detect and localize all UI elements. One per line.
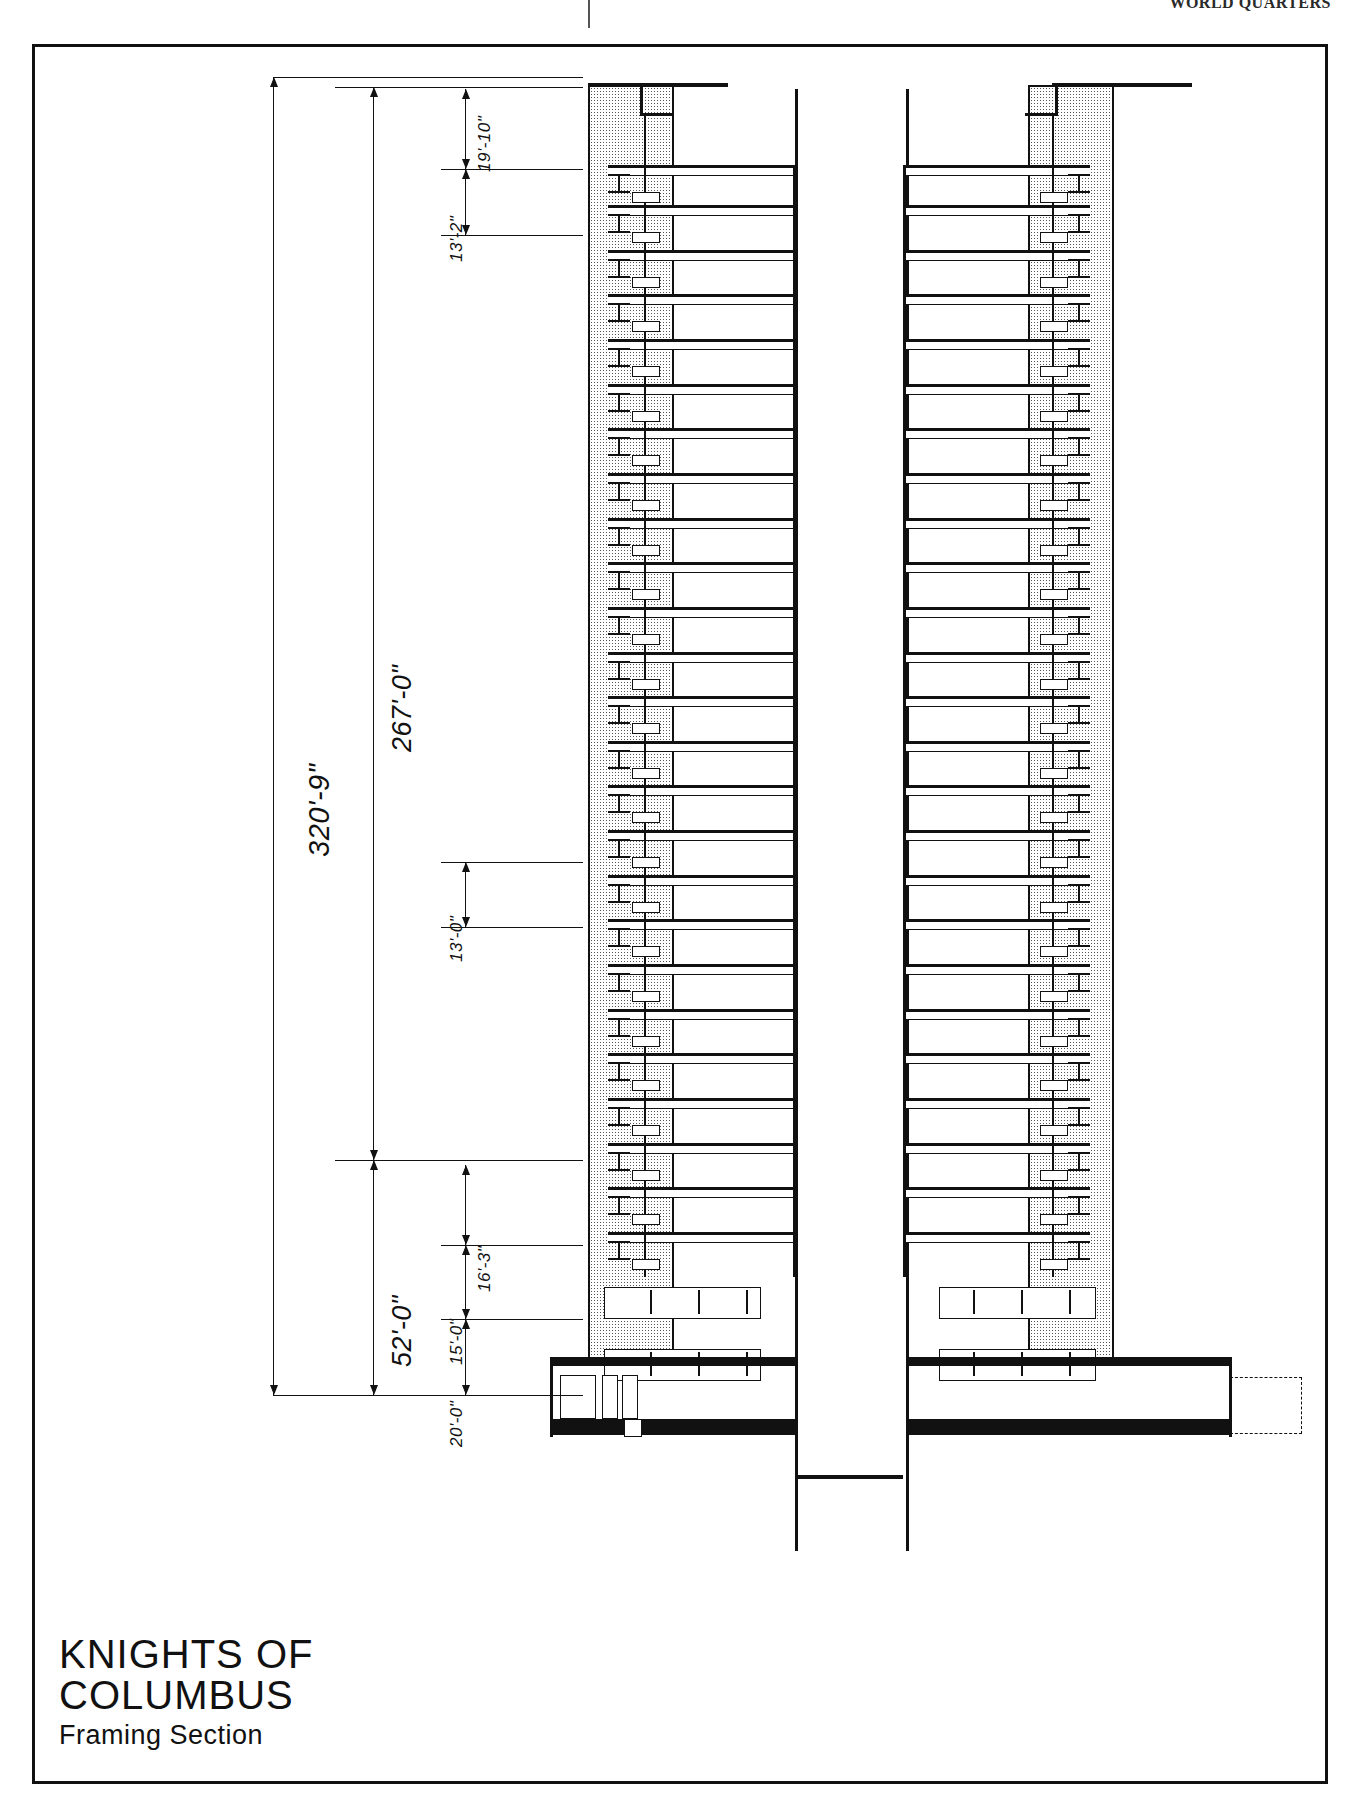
floor-slab-left <box>608 1053 795 1064</box>
core-face-left <box>793 384 796 429</box>
core-face-right <box>903 250 906 295</box>
column-splice-left <box>632 545 660 556</box>
roof-edge-right <box>1052 83 1192 87</box>
column-splice-right <box>1040 902 1068 913</box>
column-splice-left <box>632 1259 660 1270</box>
column-splice-left <box>632 857 660 868</box>
floor-slab-left <box>608 1187 795 1198</box>
column-splice-right <box>1040 366 1068 377</box>
floor-slab-right <box>903 562 1090 573</box>
column-splice-right <box>1040 679 1068 690</box>
floor-slab-left <box>608 473 795 484</box>
truss-web-right <box>1021 1290 1023 1314</box>
dimension-line-tower <box>373 87 374 1160</box>
core-face-left <box>793 830 796 875</box>
core-face-left <box>793 562 796 607</box>
floor-beam-stub-right <box>1068 661 1090 680</box>
dimension-label-tower: 267'-0" <box>387 665 418 752</box>
column-splice-left <box>632 723 660 734</box>
titleblock-line3: Framing Section <box>59 1720 479 1751</box>
basement-room-3 <box>622 1375 638 1419</box>
core-base-slab <box>795 1475 903 1479</box>
core-face-right <box>903 294 906 339</box>
core-face-left <box>793 473 796 518</box>
floor-beam-stub-left <box>608 348 630 367</box>
column-line-right <box>1052 1098 1054 1143</box>
core-face-left <box>793 785 796 830</box>
floor-slab-right <box>903 696 1090 707</box>
floor-beam-stub-left <box>608 884 630 903</box>
column-splice-right <box>1040 545 1068 556</box>
floor-beam-stub-right <box>1068 259 1090 278</box>
header-registration-tick <box>588 0 590 28</box>
column-splice-left <box>632 321 660 332</box>
dimension-line-lobby-upper-arrow-top <box>462 1165 470 1175</box>
column-line-left <box>644 518 646 563</box>
floor-slab-left <box>608 696 795 707</box>
core-face-right <box>903 562 906 607</box>
column-splice-right <box>1040 589 1068 600</box>
central-core-shaft <box>795 89 909 1551</box>
floor-beam-stub-right <box>1068 794 1090 813</box>
column-line-left <box>644 1187 646 1232</box>
core-face-right <box>903 518 906 563</box>
floor-beam-stub-left <box>608 1152 630 1171</box>
floor-slab-right <box>903 250 1090 261</box>
core-face-left <box>793 607 796 652</box>
column-line-left <box>644 428 646 473</box>
column-splice-right <box>1040 277 1068 288</box>
floor-beam-stub-left <box>608 393 630 412</box>
dimension-line-mech-floor-arrow-top <box>462 169 470 179</box>
core-face-right <box>903 830 906 875</box>
basement-sump <box>624 1419 642 1437</box>
lobby-transfer-truss-left <box>604 1287 761 1319</box>
floor-slab-left <box>608 830 795 841</box>
column-line-right <box>1052 964 1054 1009</box>
core-face-right <box>903 428 906 473</box>
core-face-right <box>903 1053 906 1098</box>
column-splice-left <box>632 366 660 377</box>
floor-slab-left <box>608 964 795 975</box>
floor-beam-stub-left <box>608 527 630 546</box>
dimension-line-typical-floor-arrow-top <box>462 862 470 872</box>
core-face-right <box>903 1187 906 1232</box>
dimension-line-roof-parapet <box>465 89 466 169</box>
floor-beam-stub-right <box>1068 884 1090 903</box>
column-line-left <box>644 652 646 697</box>
dimension-line-lobby-upper-arrow-bottom <box>462 1235 470 1245</box>
column-splice-right <box>1040 634 1068 645</box>
floor-slab-right <box>903 785 1090 796</box>
core-face-left <box>793 250 796 295</box>
column-line-left <box>644 785 646 830</box>
core-face-right <box>903 339 906 384</box>
column-splice-left <box>632 946 660 957</box>
column-splice-right <box>1040 192 1068 203</box>
column-splice-left <box>632 768 660 779</box>
titleblock: KNIGHTS OF COLUMBUS Framing Section <box>59 1634 479 1751</box>
floor-slab-left <box>608 428 795 439</box>
core-face-right <box>903 1143 906 1188</box>
floor-beam-stub-right <box>1068 348 1090 367</box>
core-face-left <box>793 428 796 473</box>
column-line-right <box>1052 294 1054 339</box>
floor-beam-stub-right <box>1068 1107 1090 1126</box>
floor-beam-stub-right <box>1068 928 1090 947</box>
column-line-right <box>1052 428 1054 473</box>
floor-slab-right <box>903 1143 1090 1154</box>
floor-beam-stub-right <box>1068 214 1090 233</box>
dimension-line-tower-arrow-bottom <box>370 1150 378 1160</box>
floor-slab-left <box>608 384 795 395</box>
floor-slab-right <box>903 1053 1090 1064</box>
column-splice-left <box>632 277 660 288</box>
core-face-right <box>903 384 906 429</box>
core-face-left <box>793 294 796 339</box>
floor-beam-stub-right <box>1068 973 1090 992</box>
column-splice-left <box>632 634 660 645</box>
floor-beam-stub-right <box>1068 303 1090 322</box>
column-line-left <box>644 1232 646 1277</box>
column-splice-right <box>1040 500 1068 511</box>
extension-line-lobby-mid <box>441 1245 583 1246</box>
floor-slab-left <box>608 562 795 573</box>
column-line-right <box>1052 1053 1054 1098</box>
column-line-right <box>1052 607 1054 652</box>
